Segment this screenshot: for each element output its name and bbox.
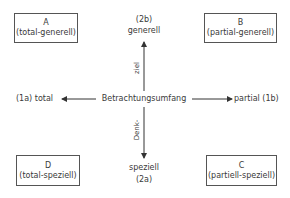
quadrant-d-desc: (total-speziell) <box>17 171 79 181</box>
quadrant-c-desc: (partiell-speziell) <box>207 171 276 181</box>
bottom-end-label: speziell <box>114 163 174 173</box>
right-end-label: partial (1b) <box>234 94 279 104</box>
quadrant-box-a: A (total-generell) <box>14 13 78 43</box>
quadrant-b-letter: B <box>205 18 276 28</box>
quadrant-c-letter: C <box>207 161 276 171</box>
quadrant-box-c: C (partiell-speziell) <box>206 155 277 186</box>
quadrant-box-b: B (partial-generell) <box>204 13 277 43</box>
bottom-end-code: (2a) <box>114 175 174 185</box>
quadrant-box-d: D (total-speziell) <box>16 155 80 186</box>
quadrant-a-desc: (total-generell) <box>15 28 77 38</box>
vertical-axis-label-upper: ziel <box>133 58 141 78</box>
left-end-label: (1a) total <box>16 94 53 104</box>
top-end-label: generell <box>114 26 174 36</box>
quadrant-a-letter: A <box>15 18 77 28</box>
top-end-code: (2b) <box>114 15 174 25</box>
quadrant-d-letter: D <box>17 161 79 171</box>
horizontal-axis-label: Betrachtungsumfang <box>94 94 194 104</box>
quadrant-b-desc: (partial-generell) <box>205 28 276 38</box>
vertical-axis-label-lower: Denk- <box>133 117 141 143</box>
